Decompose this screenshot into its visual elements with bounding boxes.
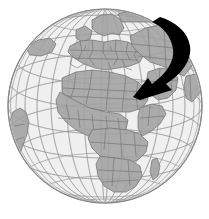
globe-svg [0,0,209,219]
figure-root: Orthographic globe centered on Africa an… [0,0,209,219]
